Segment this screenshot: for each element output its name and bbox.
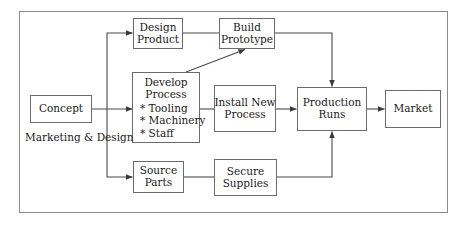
node-market[interactable]: Market <box>385 90 441 128</box>
caption-marketing-and-design-line-2: & Design <box>84 131 134 143</box>
edge-concept-trunk-descender <box>107 109 133 177</box>
node-design-product[interactable]: Design Product <box>133 18 183 49</box>
node-develop-process-bullet-1: * Tooling <box>140 102 206 115</box>
node-build-prototype[interactable]: Build Prototype <box>219 18 275 49</box>
node-develop-process-bullet-3: * Staff <box>140 127 206 140</box>
node-production-runs-line-2: Runs <box>319 109 346 121</box>
node-install-new-process[interactable]: Install New Process <box>214 85 276 132</box>
node-develop-process-heading-1: Develop <box>144 77 187 89</box>
node-concept[interactable]: Concept <box>30 95 92 123</box>
edge-build-prototype-to-production-runs-segment <box>275 33 332 87</box>
edge-concept-trunk-riser <box>107 33 133 109</box>
node-install-new-process-line-2: Process <box>224 109 265 121</box>
node-concept-line-1: Concept <box>39 103 83 115</box>
caption-marketing-and-design: Marketing & Design <box>25 131 97 143</box>
node-secure-supplies-line-2: Supplies <box>223 178 269 190</box>
node-install-new-process-line-1: Install New <box>214 97 275 109</box>
caption-marketing-and-design-line-1: Marketing <box>25 131 81 143</box>
node-secure-supplies[interactable]: Secure Supplies <box>214 159 277 196</box>
node-develop-process-bullet-2: * Machinery <box>140 114 206 127</box>
node-production-runs[interactable]: Production Runs <box>297 87 367 131</box>
node-build-prototype-line-2: Prototype <box>221 34 273 46</box>
node-source-parts[interactable]: Source Parts <box>133 161 184 193</box>
edge-develop-process-to-build-prototype-segment <box>186 50 245 73</box>
node-design-product-line-1: Design <box>140 22 177 34</box>
node-market-line-1: Market <box>394 103 433 115</box>
node-secure-supplies-line-1: Secure <box>227 166 264 178</box>
node-develop-process[interactable]: Develop Process * Tooling * Machinery * … <box>132 72 200 143</box>
edge-secure-supplies-to-production-runs-segment <box>277 132 332 178</box>
node-build-prototype-line-1: Build <box>233 22 261 34</box>
flowchart-canvas: Concept Design Product Build Prototype D… <box>0 0 468 225</box>
node-design-product-line-2: Product <box>137 34 179 46</box>
node-develop-process-heading-2: Process <box>144 89 187 101</box>
node-source-parts-line-2: Parts <box>145 177 172 189</box>
